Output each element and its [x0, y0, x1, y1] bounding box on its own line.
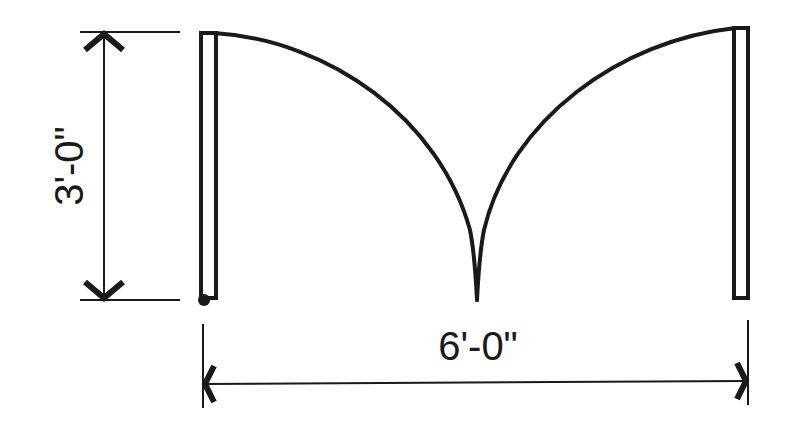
right-swing-arc [477, 28, 736, 300]
width-dimension-label: 6'-0" [438, 324, 518, 368]
right-door-leaf [734, 28, 748, 298]
door-plan-diagram: 3'-0" 6'-0" [0, 0, 793, 431]
left-swing-arc [214, 33, 477, 300]
width-dimension: 6'-0" [203, 320, 748, 408]
height-dimension-label: 3'-0" [47, 126, 91, 206]
height-dimension: 3'-0" [47, 32, 180, 300]
left-door-leaf [201, 33, 216, 298]
width-dimension-line [205, 381, 746, 384]
hinge-point-icon [198, 294, 210, 306]
